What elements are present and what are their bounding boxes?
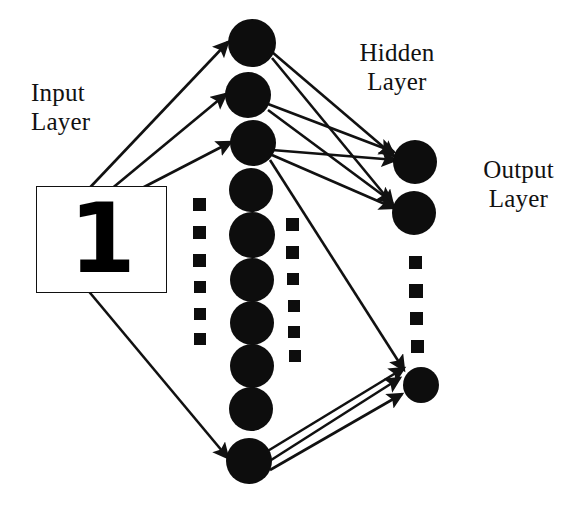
output-ellipsis-square bbox=[410, 312, 423, 325]
output-node bbox=[403, 367, 439, 403]
input-layer-label: Input Layer bbox=[31, 78, 90, 136]
connection-arrow bbox=[270, 394, 402, 470]
input-digit-glyph: 1 bbox=[37, 187, 168, 294]
hidden-layer-nodes bbox=[225, 19, 276, 484]
hidden-node bbox=[229, 168, 273, 212]
hidden-left-ellipsis-square bbox=[193, 254, 206, 267]
connection-arrow bbox=[270, 160, 404, 370]
hidden-node bbox=[225, 72, 271, 118]
hidden-left-ellipsis-square bbox=[193, 198, 206, 211]
input-image-box: 1 bbox=[36, 186, 167, 293]
hidden-right-ellipsis-square bbox=[288, 326, 300, 338]
connection-arrow bbox=[268, 104, 394, 152]
output-node bbox=[392, 191, 436, 235]
hidden-node bbox=[228, 19, 276, 67]
hidden-node bbox=[230, 344, 274, 388]
hidden-left-ellipsis-square bbox=[193, 226, 206, 239]
output-node bbox=[393, 140, 437, 184]
connection-arrow bbox=[272, 155, 394, 208]
connection-arrow bbox=[86, 288, 228, 458]
hidden-left-ellipsis-square bbox=[194, 308, 206, 320]
hidden-node bbox=[230, 301, 274, 345]
neural-network-diagram: 1 Input Layer Hidden Layer Output Layer bbox=[0, 0, 577, 508]
hidden-to-output-edges bbox=[266, 52, 404, 470]
connection-arrow bbox=[268, 378, 400, 462]
hidden-node bbox=[230, 120, 276, 166]
hidden-node bbox=[226, 438, 272, 484]
hidden-right-ellipsis-square bbox=[286, 246, 299, 259]
output-ellipsis-square bbox=[409, 284, 423, 298]
hidden-left-ellipsis-square bbox=[194, 333, 206, 345]
hidden-left-ellipsis-square bbox=[194, 281, 206, 293]
hidden-right-ellipsis-square bbox=[288, 300, 300, 312]
hidden-node bbox=[229, 212, 275, 258]
hidden-node bbox=[230, 258, 274, 302]
output-ellipsis-square bbox=[409, 256, 422, 269]
hidden-right-ellipsis-square bbox=[289, 350, 301, 362]
connection-arrow bbox=[80, 42, 228, 198]
hidden-right-ellipsis-square bbox=[287, 273, 299, 285]
output-ellipsis-square bbox=[411, 340, 424, 353]
hidden-node bbox=[229, 387, 273, 431]
connection-arrow bbox=[266, 368, 404, 452]
output-layer-label: Output Layer bbox=[466, 155, 571, 213]
hidden-layer-label: Hidden Layer bbox=[337, 38, 457, 96]
hidden-right-ellipsis-square bbox=[286, 218, 299, 231]
